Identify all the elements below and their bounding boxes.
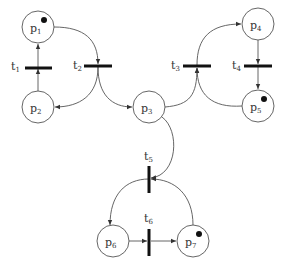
- token: [41, 17, 47, 23]
- arc-p3-t3: [165, 68, 197, 107]
- transition-t2[interactable]: t2: [73, 59, 112, 73]
- arc-p3-t5: [151, 117, 174, 178]
- transition-t1[interactable]: t1: [11, 60, 52, 74]
- arc-t2-p2: [55, 67, 98, 107]
- place-p7[interactable]: p7: [177, 225, 209, 257]
- svg-text:t2: t2: [73, 59, 82, 73]
- svg-text:t4: t4: [232, 59, 241, 73]
- transition-t6[interactable]: t6: [144, 212, 153, 256]
- arc-t2-p3: [98, 67, 132, 107]
- svg-text:t5: t5: [144, 150, 153, 164]
- svg-text:t6: t6: [144, 212, 153, 226]
- svg-text:t1: t1: [11, 60, 20, 74]
- arc-p5-t3: [197, 68, 242, 106]
- svg-text:t3: t3: [171, 59, 180, 73]
- arcs: [38, 24, 258, 241]
- petri-net-diagram: p1 p2 p3 p4 p5 p6 p7 t1 t2 t3 t: [0, 0, 287, 269]
- token: [261, 96, 267, 102]
- place-p1[interactable]: p1: [22, 11, 54, 43]
- transition-t3[interactable]: t3: [171, 59, 211, 73]
- place-p5[interactable]: p5: [242, 90, 274, 122]
- token: [196, 231, 202, 237]
- arc-p7-t5: [151, 179, 193, 225]
- transition-t5[interactable]: t5: [144, 150, 153, 193]
- place-p2[interactable]: p2: [22, 91, 54, 123]
- transition-t4[interactable]: t4: [232, 59, 272, 73]
- place-p6[interactable]: p6: [97, 225, 129, 257]
- place-p4[interactable]: p4: [242, 8, 274, 40]
- place-p3[interactable]: p3: [133, 91, 165, 123]
